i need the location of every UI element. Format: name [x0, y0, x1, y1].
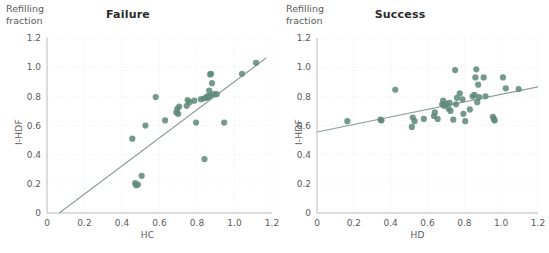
x-tick-label: 1.2	[265, 218, 279, 228]
data-point	[221, 119, 227, 125]
plot-area-success: 00.20.40.60.81.01.200.20.40.60.81.01.2	[280, 0, 549, 253]
data-point	[378, 117, 384, 123]
x-tick-label: 0.8	[190, 218, 205, 228]
x-tick-label: 0.4	[115, 218, 130, 228]
data-point	[516, 86, 522, 92]
y-tick-label: 0.8	[297, 92, 312, 102]
y-tick-label: 0.2	[27, 179, 41, 189]
data-point	[239, 71, 245, 77]
y-tick-label: 0.6	[27, 121, 42, 131]
data-point	[392, 87, 398, 93]
data-point	[503, 85, 509, 91]
y-tick-label: 1.2	[297, 33, 311, 43]
y-tick-label: 0	[305, 208, 311, 218]
y-tick-label: 1.2	[27, 33, 41, 43]
x-tick-label: 0.6	[152, 218, 167, 228]
data-point	[472, 74, 478, 80]
x-axis-label-success: HD	[310, 230, 525, 240]
panel-success: Refilling fraction Success 00.20.40.60.8…	[280, 0, 549, 253]
x-tick-label: 0.8	[457, 218, 472, 228]
data-point	[135, 181, 141, 187]
data-point	[459, 96, 465, 102]
y-tick-label: 0.4	[27, 150, 42, 160]
tick-labels: 00.20.40.60.81.01.200.20.40.60.81.01.2	[297, 33, 545, 228]
data-point	[344, 118, 350, 124]
data-point	[214, 91, 220, 97]
data-point	[457, 90, 463, 96]
data-points	[129, 60, 259, 189]
data-point	[500, 74, 506, 80]
data-point	[432, 109, 438, 115]
x-axis-label-failure: HC	[40, 230, 255, 240]
data-point	[208, 71, 214, 77]
x-tick-label: 0.2	[347, 218, 361, 228]
data-point	[412, 118, 418, 124]
data-point	[201, 156, 207, 162]
x-tick-label: 0.4	[384, 218, 399, 228]
data-point	[447, 108, 453, 114]
data-point	[453, 101, 459, 107]
data-point	[492, 117, 498, 123]
y-tick-label: 0.2	[297, 179, 311, 189]
data-point	[447, 100, 453, 106]
data-point	[129, 136, 135, 142]
data-point	[435, 116, 441, 122]
regression-line	[59, 58, 266, 213]
data-point	[209, 80, 215, 86]
two-panel-scatter-figure: Refilling fraction Failure 00.20.40.60.8…	[0, 0, 549, 253]
data-point	[462, 118, 468, 124]
y-tick-label: 1.0	[297, 62, 312, 72]
data-point	[175, 111, 181, 117]
x-tick-label: 1.0	[227, 218, 242, 228]
data-point	[253, 60, 259, 66]
gridlines	[47, 38, 272, 213]
data-point	[409, 124, 415, 130]
data-point	[481, 74, 487, 80]
data-point	[475, 82, 481, 88]
data-point	[162, 117, 168, 123]
data-point	[142, 122, 148, 128]
x-tick-label: 0	[44, 218, 50, 228]
y-tick-label: 0.4	[297, 150, 312, 160]
data-point	[153, 94, 159, 100]
data-point	[421, 116, 427, 122]
tick-labels: 00.20.40.60.81.01.200.20.40.60.81.01.2	[27, 33, 279, 228]
data-point	[176, 103, 182, 109]
x-tick-label: 0.2	[77, 218, 91, 228]
panel-failure: Refilling fraction Failure 00.20.40.60.8…	[0, 0, 280, 253]
y-axis-label-failure: I-HDF	[14, 119, 24, 145]
data-point	[191, 98, 197, 104]
data-point	[450, 117, 456, 123]
y-tick-label: 1.0	[27, 62, 42, 72]
data-point	[467, 106, 473, 112]
data-point	[476, 94, 482, 100]
x-tick-label: 1.2	[531, 218, 545, 228]
y-axis-label-success: I-HDF	[294, 119, 304, 145]
plot-area-failure: 00.20.40.60.81.01.200.20.40.60.81.01.2	[0, 0, 280, 253]
data-point	[139, 173, 145, 179]
data-point	[460, 111, 466, 117]
data-point	[452, 67, 458, 73]
y-tick-label: 0.8	[27, 92, 42, 102]
data-point	[482, 93, 488, 99]
x-tick-label: 0.6	[420, 218, 435, 228]
x-tick-label: 1.0	[494, 218, 509, 228]
data-point	[193, 119, 199, 125]
x-tick-label: 0	[314, 218, 320, 228]
data-point	[473, 66, 479, 72]
y-tick-label: 0	[35, 208, 41, 218]
